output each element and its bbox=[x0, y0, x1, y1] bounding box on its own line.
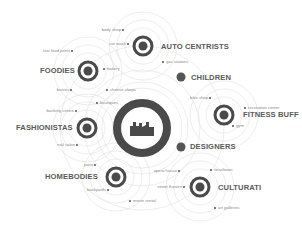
place-bakery: bakery bbox=[107, 67, 120, 71]
place-bike-shop: bike shop bbox=[190, 96, 208, 100]
foodies-target[interactable] bbox=[79, 62, 97, 80]
factory-skyline-icon bbox=[130, 122, 154, 136]
homebodies-target[interactable] bbox=[107, 168, 125, 186]
place-art-galleries: art galleries bbox=[218, 206, 240, 210]
children-label: CHILDREN bbox=[191, 74, 231, 82]
place-recreation-center: recreation center bbox=[248, 106, 279, 110]
place-boutiques: boutiques bbox=[100, 101, 118, 105]
place-tinseltown: tinseltown bbox=[214, 168, 233, 172]
place-banking-centre: banking centre bbox=[47, 109, 74, 113]
fashionistas-target[interactable] bbox=[78, 119, 96, 137]
designers-dot[interactable] bbox=[177, 143, 186, 152]
homebodies-label: HOMEBODIES bbox=[45, 173, 98, 181]
place-gym: gym bbox=[236, 124, 244, 128]
place-patio: patio bbox=[84, 163, 93, 167]
place-cheese-shops: cheese shops bbox=[110, 88, 136, 92]
culturati-target[interactable] bbox=[191, 178, 209, 196]
place-gas-stations: gas stations bbox=[166, 60, 188, 64]
place-movie-rental: movie rental bbox=[133, 199, 156, 203]
place-bistros: bistros bbox=[57, 88, 69, 92]
place-street-theatre: street theatre bbox=[157, 185, 182, 189]
place-car-wash: car wash bbox=[109, 42, 126, 46]
place-body-shop: body shop bbox=[102, 28, 121, 32]
place-opera-house: opera house bbox=[154, 169, 177, 173]
center-hub bbox=[117, 103, 167, 153]
foodies-label: FOODIES bbox=[40, 67, 75, 75]
fitness-buff-label: FITNESS BUFF bbox=[243, 111, 299, 119]
children-dot[interactable] bbox=[177, 73, 186, 82]
place-fast-food-joints: fast food joints bbox=[43, 49, 70, 53]
fashionistas-label: FASHIONISTAS bbox=[16, 124, 73, 132]
auto-centrists-label: AUTO CENTRISTS bbox=[161, 43, 229, 51]
designers-label: DESIGNERS bbox=[190, 143, 236, 151]
culturati-label: CULTURATI bbox=[218, 184, 261, 192]
place-backyards: backyards bbox=[87, 188, 106, 192]
place-nail-salon: nail salon bbox=[57, 143, 75, 147]
